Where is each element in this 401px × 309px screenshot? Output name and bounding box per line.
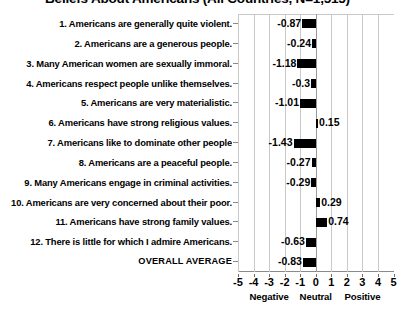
category-label: 3. Many American women are sexually immo… (0, 54, 232, 74)
x-axis-tick-label: 5 (381, 276, 401, 288)
gridline (378, 14, 379, 272)
bar (316, 218, 328, 227)
gridline (285, 14, 286, 272)
plot-area (238, 14, 394, 272)
bar (297, 59, 315, 68)
bar (311, 79, 316, 88)
bar (306, 238, 316, 247)
x-axis-band-label: Positive (327, 291, 397, 302)
category-label: 2. Americans are a generous people. (0, 34, 232, 54)
bar (311, 178, 316, 187)
gridline (238, 14, 239, 272)
category-label: OVERALL AVERAGE (0, 252, 232, 272)
gridline (362, 14, 363, 272)
bar (294, 139, 316, 148)
category-label: 10. Americans are very concerned about t… (0, 193, 232, 213)
bar (316, 198, 321, 207)
category-label: 1. Americans are generally quite violent… (0, 14, 232, 34)
bar (303, 258, 316, 267)
category-label: 7. Americans like to dominate other peop… (0, 133, 232, 153)
category-label: 11. Americans have strong family values. (0, 212, 232, 232)
category-label: 9. Many Americans engage in criminal act… (0, 173, 232, 193)
category-label: 5. Americans are very materialistic. (0, 93, 232, 113)
bar (312, 158, 316, 167)
bar (316, 119, 318, 128)
category-label: 4. Americans respect people unlike thems… (0, 74, 232, 94)
gridline (331, 14, 332, 272)
gridline (347, 14, 348, 272)
category-label: 8. Americans are a peaceful people. (0, 153, 232, 173)
category-label: 6. Americans have strong religious value… (0, 113, 232, 133)
bar (312, 39, 316, 48)
gridline (254, 14, 255, 272)
gridline (269, 14, 270, 272)
chart-title: Beliefs About Americans (All Countries, … (0, 0, 395, 6)
x-axis: -5-4-3-2-1012345NegativeNeutralPositive (238, 274, 394, 308)
bar (302, 19, 316, 28)
zero-axis-line (316, 14, 317, 272)
category-label: 12. There is little for which I admire A… (0, 232, 232, 252)
bar (300, 99, 316, 108)
